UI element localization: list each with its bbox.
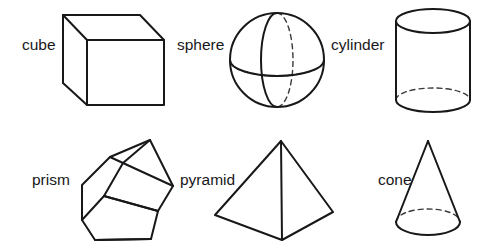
shape-label-cylinder: cylinder <box>331 36 384 53</box>
shape-label-cube: cube <box>22 36 56 53</box>
pyramid-icon <box>215 141 333 240</box>
cone-icon <box>396 141 460 235</box>
shape-label-sphere: sphere <box>177 36 224 53</box>
cube-icon <box>63 15 164 105</box>
prism-icon <box>82 140 173 240</box>
solids-figure: cube sphere cylinder prism pyramid cone <box>0 0 493 250</box>
cylinder-icon <box>396 9 470 112</box>
shape-label-pyramid: pyramid <box>180 171 235 188</box>
sphere-icon <box>230 13 324 107</box>
solids-canvas: cube sphere cylinder prism pyramid cone <box>0 0 493 250</box>
shape-label-cone: cone <box>378 171 412 188</box>
shape-label-prism: prism <box>32 171 70 188</box>
